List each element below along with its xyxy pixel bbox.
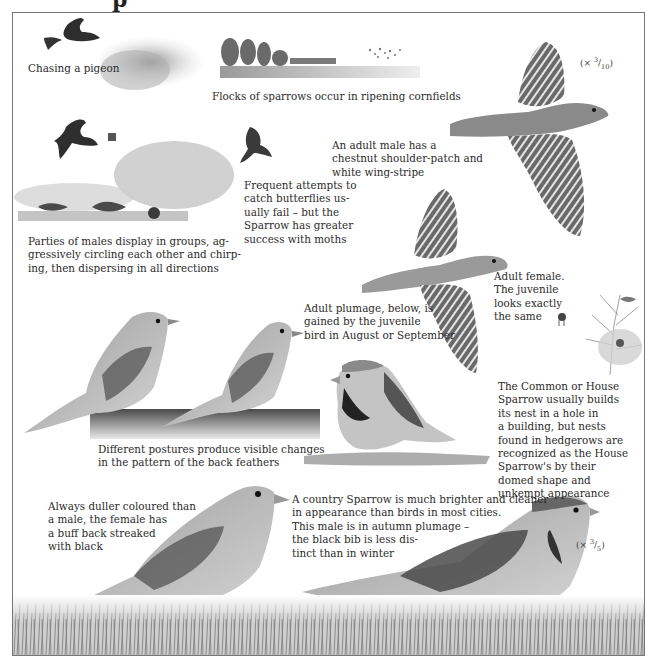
caption-line: tinct than in winter (292, 547, 548, 560)
caption-line: in appearance than birds in most cities. (292, 506, 548, 519)
caption-line: An adult male has a (332, 139, 483, 152)
caption-line: a building, but nests (498, 420, 628, 433)
caption-butterflies: Frequent attempts to catch butterflies u… (244, 179, 356, 246)
caption-parties-males: Parties of males display in groups, ag- … (28, 235, 241, 275)
caption-line: ing, then dispersing in all directions (28, 262, 241, 275)
caption-line: gressively circling each other and chirp… (28, 248, 241, 261)
caption-line: Sparrow usually builds (498, 393, 628, 406)
caption-female-duller: Always duller coloured than a male, the … (48, 500, 196, 554)
caption-line: looks exactly (494, 297, 564, 310)
caption-line: found in hedgerows are (498, 434, 628, 447)
grass-band-illustration (13, 595, 644, 655)
caption-country-sparrow: A country Sparrow is much brighter and c… (292, 493, 548, 560)
caption-line: Frequent attempts to (244, 179, 356, 192)
scale-label-top: (× 3/10) (580, 56, 613, 71)
caption-line: catch butterflies us- (244, 192, 356, 205)
caption-line: A country Sparrow is much brighter and c… (292, 493, 548, 506)
caption-line: in the pattern of the back feathers (98, 456, 325, 469)
hedgerow-nest-illustration (580, 285, 646, 377)
scale-label-bottom: (× 3/5) (576, 538, 605, 553)
caption-line: Different postures produce visible chang… (98, 443, 325, 456)
caption-flocks-cornfields: Flocks of sparrows occur in ripening cor… (212, 90, 461, 103)
males-display-group-illustration (14, 115, 239, 235)
caption-line: chestnut shoulder-patch and (332, 152, 483, 165)
caption-line: success with moths (244, 233, 356, 246)
caption-line: This male is in autumn plumage – (292, 520, 548, 533)
page-title-fragment: p (112, 0, 127, 12)
caption-adult-plumage: Adult plumage, below, is gained by the j… (304, 302, 455, 342)
male-sparrow-perched-illustration (300, 352, 490, 470)
caption-line: Parties of males display in groups, ag- (28, 235, 241, 248)
caption-line: The Common or House (498, 380, 628, 393)
caption-line: with black (48, 540, 196, 553)
caption-line: a buff back streaked (48, 527, 196, 540)
caption-line: The juvenile (494, 283, 564, 296)
two-sparrows-on-post-illustration (22, 305, 322, 450)
adult-female-in-flight-illustration (360, 185, 510, 375)
caption-line: Adult female. (494, 270, 564, 283)
caption-line: the black bib is less dis- (292, 533, 548, 546)
caption-line: the same (494, 310, 564, 323)
caption-nest: The Common or House Sparrow usually buil… (498, 380, 628, 501)
caption-line: bird in August or September (304, 329, 455, 342)
caption-adult-male-flight: An adult male has a chestnut shoulder-pa… (332, 139, 483, 179)
caption-line: white wing-stripe (332, 166, 483, 179)
sparrow-catching-butterfly-illustration (236, 125, 276, 171)
caption-postures: Different postures produce visible chang… (98, 443, 325, 470)
caption-line: its nest in a hole in (498, 407, 628, 420)
caption-line: domed shape and (498, 474, 628, 487)
caption-line: gained by the juvenile (304, 315, 455, 328)
caption-line: a male, the female has (48, 513, 196, 526)
caption-line: recognized as the House (498, 447, 628, 460)
caption-adult-female-flight: Adult female. The juvenile looks exactly… (494, 270, 564, 324)
caption-chasing-pigeon: Chasing a pigeon (28, 62, 119, 75)
caption-line: Sparrow has greater (244, 219, 356, 232)
caption-line: Adult plumage, below, is (304, 302, 455, 315)
caption-line: ually fail – but the (244, 206, 356, 219)
caption-line: Sparrow's by their (498, 460, 628, 473)
caption-line: Always duller coloured than (48, 500, 196, 513)
